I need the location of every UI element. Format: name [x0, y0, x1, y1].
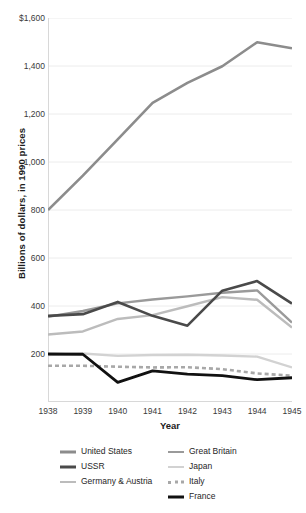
y-axis-tick-labels: 2004006008001,0001,2001,400$1,600	[0, 18, 45, 402]
y-tick-label: $1,600	[1, 13, 45, 23]
legend-label: USSR	[81, 461, 105, 471]
legend-label: United States	[81, 446, 132, 456]
x-tick-label: 1941	[136, 406, 170, 416]
legend-swatch-italy-icon	[168, 477, 184, 486]
x-axis-tick-labels: 19381939194019411942194319441945	[48, 406, 292, 420]
x-axis-title: Year	[48, 420, 292, 431]
series-line-italy	[48, 366, 292, 376]
series-line-ussr	[48, 281, 292, 326]
legend-label: Japan	[189, 461, 212, 471]
legend-column-2: Great BritainJapanItalyFrance	[168, 446, 266, 501]
legend-label: Germany & Austria	[81, 476, 152, 486]
legend-item-germany-austria[interactable]: Germany & Austria	[60, 476, 158, 486]
x-tick-label: 1940	[101, 406, 135, 416]
x-tick-label: 1938	[31, 406, 65, 416]
line-chart: Billions of dollars, in 1990 prices 2004…	[0, 0, 306, 513]
y-tick-label: 1,000	[1, 157, 45, 167]
plot-svg	[48, 18, 292, 402]
x-tick-label: 1944	[240, 406, 274, 416]
y-tick-label: 800	[1, 205, 45, 215]
legend-item-italy[interactable]: Italy	[168, 476, 266, 486]
legend-swatch-great-britain-icon	[168, 447, 184, 456]
x-tick-label: 1943	[205, 406, 239, 416]
x-tick-label: 1939	[66, 406, 100, 416]
legend-swatch-united-states-icon	[60, 447, 76, 456]
legend-item-great-britain[interactable]: Great Britain	[168, 446, 266, 456]
legend-item-france[interactable]: France	[168, 491, 266, 501]
y-tick-label: 600	[1, 253, 45, 263]
legend-label: Great Britain	[189, 446, 237, 456]
legend-swatch-germany-austria-icon	[60, 477, 76, 486]
y-tick-label: 200	[1, 349, 45, 359]
x-tick-label: 1942	[170, 406, 204, 416]
legend-column-1: United StatesUSSRGermany & Austria	[60, 446, 158, 501]
series-lines	[48, 42, 292, 382]
legend-item-united-states[interactable]: United States	[60, 446, 158, 456]
gridlines	[48, 18, 292, 354]
legend-item-japan[interactable]: Japan	[168, 461, 266, 471]
plot-area	[48, 18, 292, 402]
legend-label: France	[189, 491, 215, 501]
y-tick-label: 400	[1, 301, 45, 311]
legend-label: Italy	[189, 476, 205, 486]
legend-swatch-france-icon	[168, 492, 184, 501]
chart-legend: United StatesUSSRGermany & AustriaGreat …	[60, 446, 266, 501]
series-line-united-states	[48, 42, 292, 210]
x-tick-label: 1945	[275, 406, 306, 416]
series-line-germany-austria	[48, 297, 292, 334]
y-tick-label: 1,200	[1, 109, 45, 119]
legend-swatch-ussr-icon	[60, 462, 76, 471]
legend-swatch-japan-icon	[168, 462, 184, 471]
legend-item-ussr[interactable]: USSR	[60, 461, 158, 471]
y-tick-label: 1,400	[1, 61, 45, 71]
